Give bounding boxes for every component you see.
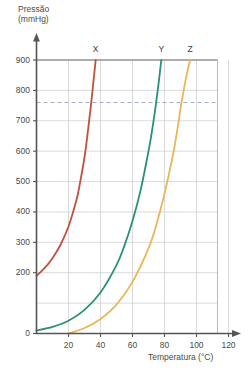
- plot-frame: [37, 60, 218, 334]
- y-tick-label: 800: [4, 85, 30, 95]
- y-tick-label: 200: [4, 267, 30, 277]
- x-tick-label: 80: [154, 340, 176, 350]
- gridlines: [37, 60, 229, 334]
- series-curve-z: [69, 60, 191, 334]
- y-axis-arrow: [33, 33, 40, 42]
- y-tick-label: 700: [4, 115, 30, 125]
- x-tick-label: 100: [186, 340, 208, 350]
- y-tick-label: 0: [4, 328, 30, 338]
- series-curves: [37, 60, 191, 334]
- curve-label-x: X: [89, 44, 103, 54]
- axes: [33, 33, 241, 337]
- series-curve-y: [37, 60, 162, 330]
- x-axis-arrow: [232, 330, 241, 337]
- x-tick-label: 20: [58, 340, 80, 350]
- series-curve-x: [37, 60, 96, 276]
- x-tick-label: 120: [218, 340, 240, 350]
- vapor-pressure-chart: Pressão (mmHg) Temperatura (°C) 02003004…: [0, 0, 252, 373]
- y-tick-label: 500: [4, 176, 30, 186]
- y-tick-label: 300: [4, 237, 30, 247]
- curve-label-y: Y: [154, 44, 168, 54]
- x-tick-label: 60: [122, 340, 144, 350]
- plot-area: [0, 0, 252, 373]
- y-tick-label: 400: [4, 206, 30, 216]
- y-tick-label: 900: [4, 55, 30, 65]
- x-tick-label: 40: [90, 340, 112, 350]
- curve-label-z: Z: [183, 44, 197, 54]
- y-tick-label: 600: [4, 146, 30, 156]
